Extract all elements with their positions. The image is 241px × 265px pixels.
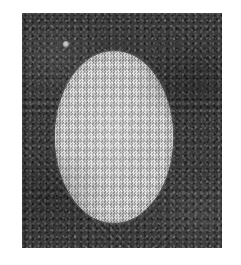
specimen-oval [55, 51, 173, 223]
bright-speck-artifact [63, 41, 69, 48]
plate-dark-field [22, 13, 222, 248]
image-canvas [0, 0, 241, 265]
